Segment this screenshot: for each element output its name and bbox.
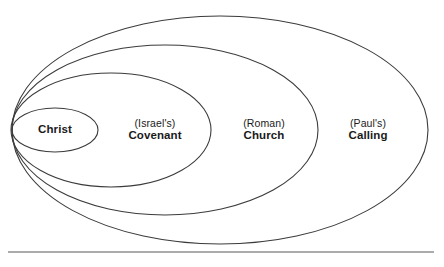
- label-covenant-main: Covenant: [128, 129, 181, 143]
- label-christ-main: Christ: [38, 123, 72, 137]
- label-covenant: (Israel's) Covenant: [128, 117, 181, 143]
- label-church-main: Church: [243, 129, 285, 143]
- label-church-qualifier: (Roman): [243, 117, 285, 129]
- label-calling-qualifier: (Paul's): [348, 117, 387, 129]
- label-calling-main: Calling: [348, 129, 387, 143]
- label-church: (Roman) Church: [243, 117, 285, 143]
- label-christ: Christ: [38, 123, 72, 137]
- label-calling: (Paul's) Calling: [348, 117, 387, 143]
- nested-ellipse-diagram: Christ (Israel's) Covenant (Roman) Churc…: [0, 0, 444, 267]
- label-covenant-qualifier: (Israel's): [128, 117, 181, 129]
